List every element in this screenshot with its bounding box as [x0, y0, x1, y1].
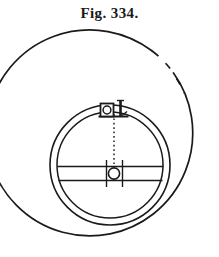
inner-ring-inner-edge [57, 112, 163, 218]
outer-rim-solid-arc [0, 30, 193, 236]
lug-eye-circle [103, 106, 111, 114]
hub-eye-circle [108, 168, 119, 179]
outer-rim-group [0, 30, 193, 236]
top-lug-fitting [99, 100, 129, 117]
figure-container: Fig. 334. [0, 0, 219, 257]
outer-rim-dashed-arc [152, 51, 174, 74]
inner-ring-outer-edge [50, 105, 170, 225]
figure-drawing [0, 0, 219, 257]
